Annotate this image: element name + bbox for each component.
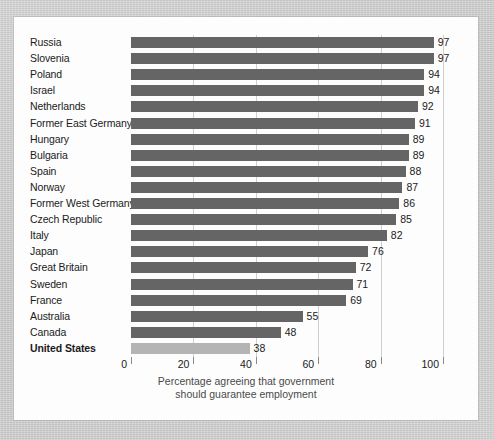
bar-row: Hungary89 (14, 132, 478, 147)
bar-value-label: 91 (419, 116, 431, 131)
bar (131, 279, 353, 290)
category-label: Slovenia (30, 51, 134, 66)
bar-value-label: 55 (307, 309, 319, 324)
bar (131, 262, 356, 273)
bar-value-label: 85 (400, 212, 412, 227)
bar-row: Czech Republic85 (14, 212, 478, 227)
bar (131, 37, 434, 48)
bar (131, 295, 346, 306)
bar-row: France69 (14, 293, 478, 308)
bar (131, 198, 399, 209)
bar-row: Slovenia97 (14, 51, 478, 66)
bar (131, 134, 409, 145)
bar-row: Spain88 (14, 164, 478, 179)
bar (131, 69, 424, 80)
bar-value-label: 38 (254, 341, 266, 356)
axis-caption: Percentage agreeing that government shou… (14, 375, 478, 401)
bar (131, 246, 368, 257)
category-label: Israel (30, 83, 134, 98)
x-tick-80 (381, 357, 382, 364)
bar (131, 101, 418, 112)
bar-row: Russia97 (14, 35, 478, 50)
bar-value-label: 88 (410, 164, 422, 179)
category-label: Hungary (30, 132, 134, 147)
bar (131, 343, 250, 354)
x-tick-20 (193, 357, 194, 364)
bar (131, 150, 409, 161)
bar-row: Australia55 (14, 309, 478, 324)
bar-value-label: 76 (372, 244, 384, 259)
bar-value-label: 82 (391, 228, 403, 243)
x-tick-label-0: 0 (89, 358, 127, 370)
x-tick-0 (131, 357, 132, 364)
category-label: Spain (30, 164, 134, 179)
bar-value-label: 89 (413, 132, 425, 147)
bar-row: Great Britain72 (14, 260, 478, 275)
axis-caption-line-2: should guarantee employment (14, 388, 478, 401)
category-label: Australia (30, 309, 134, 324)
bar-row: Bulgaria89 (14, 148, 478, 163)
bar (131, 85, 424, 96)
x-tick-60 (318, 357, 319, 364)
bar-row: Former East Germany91 (14, 116, 478, 131)
category-label: Bulgaria (30, 148, 134, 163)
bar-row: Sweden71 (14, 277, 478, 292)
bar-value-label: 72 (360, 260, 372, 275)
bar (131, 166, 406, 177)
bar-row: Netherlands92 (14, 99, 478, 114)
bar-row: Canada48 (14, 325, 478, 340)
bar (131, 230, 387, 241)
chart-figure-panel: Russia97Slovenia97Poland94Israel94Nether… (14, 17, 478, 420)
category-label: Czech Republic (30, 212, 134, 227)
x-tick-label-40: 40 (214, 358, 252, 370)
x-tick-label-20: 20 (151, 358, 189, 370)
x-tick-label-80: 80 (339, 358, 377, 370)
category-label: Norway (30, 180, 134, 195)
bar-value-label: 69 (350, 293, 362, 308)
bar (131, 214, 396, 225)
bar (131, 118, 415, 129)
category-label: Poland (30, 67, 134, 82)
category-label: Great Britain (30, 260, 134, 275)
x-tick-100 (443, 357, 444, 364)
category-label: France (30, 293, 134, 308)
bar-value-label: 86 (403, 196, 415, 211)
bar-value-label: 89 (413, 148, 425, 163)
bar-value-label: 97 (438, 51, 450, 66)
bar-row: Japan76 (14, 244, 478, 259)
x-tick-label-60: 60 (276, 358, 314, 370)
x-tick-label-100: 100 (401, 358, 439, 370)
bar-value-label: 71 (357, 277, 369, 292)
bar-row: Former West Germany86 (14, 196, 478, 211)
axis-caption-line-1: Percentage agreeing that government (14, 375, 478, 388)
category-label: Canada (30, 325, 134, 340)
bar-value-label: 94 (428, 83, 440, 98)
x-tick-40 (256, 357, 257, 364)
bar-value-label: 97 (438, 35, 450, 50)
category-label: Former East Germany (30, 116, 134, 131)
category-label: United States (30, 341, 134, 356)
bar-row: Poland94 (14, 67, 478, 82)
category-label: Sweden (30, 277, 134, 292)
bar-value-label: 87 (406, 180, 418, 195)
bar (131, 327, 281, 338)
bar-value-label: 94 (428, 67, 440, 82)
bar (131, 311, 303, 322)
category-label: Japan (30, 244, 134, 259)
bar-row: Israel94 (14, 83, 478, 98)
category-label: Former West Germany (30, 196, 134, 211)
bar-value-label: 92 (422, 99, 434, 114)
bar-row: Italy82 (14, 228, 478, 243)
category-label: Russia (30, 35, 134, 50)
category-label: Italy (30, 228, 134, 243)
bar-row: United States38 (14, 341, 478, 356)
bar-chart: Russia97Slovenia97Poland94Israel94Nether… (14, 17, 478, 420)
bar-row: Norway87 (14, 180, 478, 195)
bar (131, 182, 402, 193)
bar (131, 53, 434, 64)
bar-value-label: 48 (285, 325, 297, 340)
category-label: Netherlands (30, 99, 134, 114)
